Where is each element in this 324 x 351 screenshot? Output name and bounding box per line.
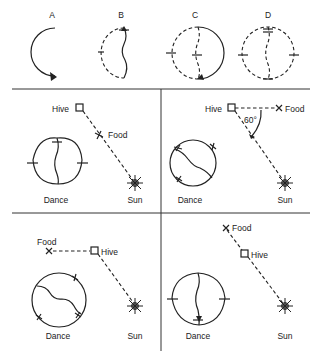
stage-d: D: [238, 10, 299, 79]
stage-b-label: B: [118, 10, 124, 20]
hive-icon: [91, 247, 98, 254]
dance-figure: [32, 273, 86, 327]
waggle-run: [122, 28, 127, 78]
sun-label: Sun: [277, 331, 292, 341]
food-label: Food: [232, 223, 252, 233]
hive-icon: [241, 250, 248, 257]
food-direction-line: [227, 230, 242, 250]
panel-top-left: Hive Food Sun Dance: [27, 104, 143, 205]
sun-icon: [127, 175, 143, 191]
semicircle-path: [31, 28, 55, 76]
dashed-arc: [101, 28, 124, 78]
sun-icon: [127, 298, 143, 314]
dance-label: Dance: [186, 331, 211, 341]
sun-direction-line: [248, 257, 285, 306]
food-marker-icon: [46, 248, 52, 254]
stage-a-label: A: [49, 10, 55, 20]
sun-label: Sun: [277, 195, 292, 205]
hive-label: Hive: [251, 250, 268, 260]
sun-label: Sun: [127, 195, 142, 205]
panel-bottom-right: Food Hive Sun Dance: [167, 223, 293, 341]
dance-figure: [27, 138, 88, 184]
dance-label: Dance: [178, 195, 203, 205]
food-marker-icon: [276, 105, 282, 111]
arrowhead-icon: [50, 72, 57, 81]
dashed-circle: [242, 27, 294, 79]
sun-label: Sun: [127, 331, 142, 341]
stage-b: B: [98, 10, 129, 78]
waggle-run: [266, 27, 270, 79]
sun-icon: [277, 175, 293, 191]
food-label: Food: [285, 104, 305, 114]
stage-c-label: C: [192, 10, 198, 20]
stage-a: A: [31, 10, 57, 81]
hive-label: Hive: [205, 104, 222, 114]
angle-label: 60°: [244, 115, 257, 125]
bee-dance-diagram: A B C D Hive Food: [0, 0, 324, 351]
arrowhead-icon: [197, 74, 204, 80]
panel-top-right: Hive Food 60° Sun Dance: [170, 104, 305, 205]
dance-figure: [170, 140, 216, 186]
food-label: Food: [108, 130, 128, 140]
food-label: Food: [37, 237, 57, 247]
hive-label: Hive: [52, 104, 69, 114]
waggle-run: [196, 27, 200, 79]
dance-label: Dance: [44, 195, 69, 205]
food-marker-icon: [223, 225, 229, 231]
hive-label: Hive: [101, 247, 118, 257]
hive-icon: [228, 104, 235, 111]
hive-icon: [76, 104, 83, 111]
direction-line: [83, 111, 135, 183]
panel-bottom-left: Food Hive Sun Dance: [32, 237, 143, 341]
stage-c: C: [166, 10, 224, 80]
solid-arc: [198, 27, 224, 79]
sun-icon: [277, 298, 293, 314]
sun-direction-line: [98, 254, 135, 305]
stage-d-label: D: [265, 10, 271, 20]
dance-figure: [167, 273, 230, 325]
dance-label: Dance: [46, 331, 71, 341]
